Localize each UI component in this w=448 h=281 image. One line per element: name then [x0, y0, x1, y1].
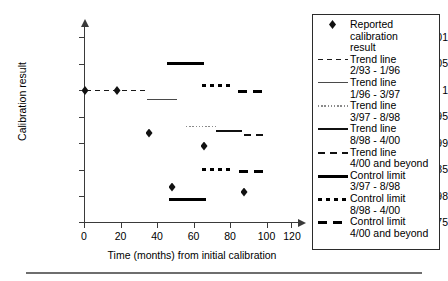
data-point-marker — [169, 183, 176, 192]
x-tick-label: 120 — [277, 231, 307, 242]
dashed-line-icon — [318, 59, 348, 60]
control-limit-upper-1998-2000 — [202, 84, 234, 87]
x-tick-label: 60 — [179, 231, 209, 242]
data-point-marker — [114, 86, 121, 95]
x-tick-mark — [230, 223, 231, 228]
legend-label-cont: 4/00 and beyond — [350, 228, 436, 240]
legend-label: Control limit — [350, 216, 405, 228]
x-tick-mark — [157, 223, 158, 228]
y-tick-mark — [79, 170, 84, 171]
y-tick-mark — [79, 196, 84, 197]
trend-line-1996-1997 — [147, 99, 177, 100]
y-tick-mark — [79, 37, 84, 38]
legend-item-control-limit-2000-beyond: Control limit — [316, 216, 436, 228]
y-tick-mark — [79, 64, 84, 65]
data-point-marker — [146, 129, 153, 138]
control-limit-lower-1997-1998 — [169, 198, 206, 201]
legend-key-dashed-medium — [316, 147, 350, 158]
data-point-marker — [82, 86, 89, 95]
solid-line-icon — [318, 128, 348, 130]
legend-key-thick-solid — [316, 170, 350, 181]
y-axis-arrow-icon — [81, 19, 89, 27]
thick-dashed-line-icon — [318, 221, 348, 224]
control-limit-upper-1997-1998 — [167, 62, 204, 65]
legend-item-trend-line-1996-1997: Trend line — [316, 77, 436, 89]
calibration-control-chart: 1.00001 1.000005 1 0.999995 0.99999 0.99… — [0, 0, 448, 281]
legend-label: Trend line — [350, 100, 396, 112]
x-axis-title: Time (months) from initial calibration — [70, 250, 314, 261]
diamond-marker-icon — [329, 20, 336, 29]
control-limit-lower-1998-2000 — [202, 168, 234, 171]
legend-key-thin-solid — [316, 77, 350, 88]
trend-line-2000-beyond — [244, 134, 268, 136]
x-tick-mark — [84, 223, 85, 228]
x-tick-label: 40 — [142, 231, 172, 242]
legend-key-solid — [316, 123, 350, 134]
legend-label: Control limit — [350, 193, 405, 205]
dotted-line-icon — [318, 105, 348, 106]
data-point-marker — [201, 142, 208, 151]
control-limit-upper-2000-beyond — [238, 90, 268, 93]
figure-bottom-rule — [26, 272, 422, 274]
legend-item-reported-calibration-result: Reported — [316, 19, 436, 31]
legend-key-dashed-thin — [316, 54, 350, 65]
legend-key-diamond — [316, 19, 350, 30]
x-tick-mark — [194, 223, 195, 228]
y-axis-line — [84, 26, 85, 223]
x-tick-mark — [267, 223, 268, 228]
trend-line-1997-1998 — [186, 126, 216, 127]
y-tick-mark — [79, 143, 84, 144]
thick-dotted-line-icon — [318, 198, 348, 201]
legend-label-cont: 4/00 and beyond — [350, 158, 436, 170]
legend-label: Trend line — [350, 77, 396, 89]
legend-item-control-limit-1998-2000: Control limit — [316, 193, 436, 205]
x-tick-label: 80 — [215, 231, 245, 242]
legend-key-fine-dotted — [316, 100, 350, 111]
control-limit-lower-2000-beyond — [239, 170, 269, 173]
x-axis-arrow-icon — [298, 219, 306, 227]
legend-key-thick-dashed — [316, 216, 350, 227]
thick-solid-line-icon — [318, 175, 348, 178]
y-axis-title: Calibration result — [17, 32, 28, 172]
data-point-marker — [241, 188, 248, 197]
chart-legend: Reported calibration result Trend line 2… — [312, 14, 440, 250]
x-tick-label: 0 — [69, 231, 99, 242]
trend-line-1998-2000 — [216, 130, 242, 132]
x-tick-mark — [291, 223, 292, 228]
y-tick-mark — [79, 117, 84, 118]
legend-label: Reported — [350, 19, 393, 31]
legend-item-trend-line-1997-1998: Trend line — [316, 100, 436, 112]
x-tick-label: 20 — [106, 231, 136, 242]
x-tick-mark — [121, 223, 122, 228]
dashed-line-icon — [318, 152, 348, 154]
legend-label-cont: 8/98 - 4/00 — [350, 135, 436, 147]
solid-line-icon — [318, 82, 348, 83]
legend-key-thick-dotted — [316, 193, 350, 204]
